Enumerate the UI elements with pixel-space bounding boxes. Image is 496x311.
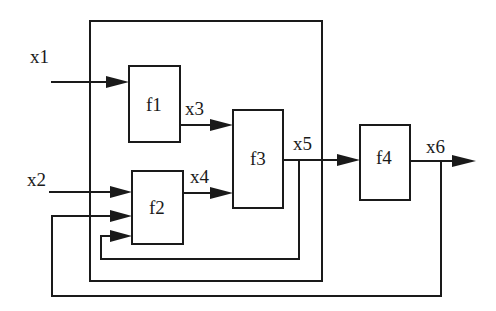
block-f4-label: f4: [376, 147, 392, 168]
arrowhead-feedback-x6-icon: [110, 210, 132, 222]
label-x2: x2: [27, 169, 46, 190]
arrowhead-x5-icon: [337, 154, 360, 166]
block-diagram: x1 x2 f1 f2 f3 f4 x3 x4 x5 x6: [0, 0, 496, 311]
block-f3-label: f3: [250, 148, 266, 169]
arrowhead-x6-icon: [452, 155, 476, 167]
block-f1-label: f1: [146, 94, 162, 115]
arrowhead-feedback-x5-icon: [110, 230, 132, 242]
label-x6: x6: [426, 136, 445, 157]
label-x3: x3: [185, 98, 204, 119]
subsystem-enclosure: [90, 21, 322, 281]
label-x5: x5: [293, 133, 312, 154]
arrowhead-x4-icon: [210, 187, 233, 199]
label-x1: x1: [30, 46, 49, 67]
arrowhead-x2-icon: [110, 186, 132, 198]
label-x4: x4: [190, 166, 210, 187]
block-f2-label: f2: [149, 197, 165, 218]
arrowhead-x1-icon: [106, 76, 129, 88]
arrowhead-x3-icon: [210, 119, 233, 131]
